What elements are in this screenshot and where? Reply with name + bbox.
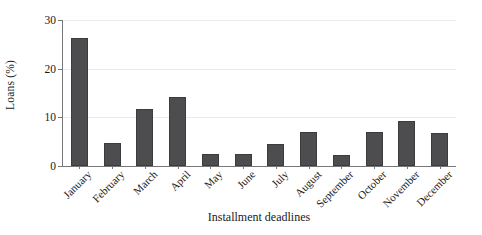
y-axis-title: Loans (%) (0, 0, 20, 170)
x-axis-tick-labels: JanuaryFebruaryMarchAprilMayJuneJulyAugu… (63, 168, 456, 212)
bar-slot (136, 20, 153, 166)
bar (333, 155, 350, 166)
bar (169, 97, 186, 166)
bar-slot (169, 20, 186, 166)
x-axis-tick-label: March (131, 168, 160, 197)
bar-slot (71, 20, 88, 166)
x-axis-title-label: Installment deadlines (208, 210, 310, 224)
plot-area: 0102030 (62, 20, 456, 166)
bar (202, 154, 219, 166)
y-axis-tick-label: 20 (45, 63, 57, 75)
bar (104, 143, 121, 166)
bar-slot (300, 20, 317, 166)
bar (431, 133, 448, 166)
y-axis-tick-label: 10 (45, 111, 57, 123)
bar-slot (235, 20, 252, 166)
bar-slot (267, 20, 284, 166)
x-axis-line (62, 166, 456, 167)
bar (267, 144, 284, 166)
x-axis-tick-label: July (269, 168, 290, 189)
bar-slot (366, 20, 383, 166)
y-axis-tick-mark (58, 69, 62, 70)
bar-slot (202, 20, 219, 166)
bar-slot (398, 20, 415, 166)
y-axis-tick-mark (58, 166, 62, 167)
x-axis-title: Installment deadlines (62, 210, 456, 225)
x-axis-tick-label: August (292, 168, 323, 199)
bar (136, 109, 153, 166)
bar-slot (333, 20, 350, 166)
bar (300, 132, 317, 166)
y-axis-tick-mark (58, 117, 62, 118)
x-axis-tick-label: April (167, 168, 192, 193)
y-axis-tick-label: 30 (45, 14, 57, 26)
bar-chart-figure: Loans (%) 0102030 JanuaryFebruaryMarchAp… (0, 0, 482, 235)
bar (71, 38, 88, 166)
x-axis-tick-label: February (90, 168, 127, 205)
y-axis-tick-mark (58, 20, 62, 21)
bars-group (63, 20, 456, 166)
bar-slot (431, 20, 448, 166)
x-axis-tick-label: June (235, 168, 258, 191)
bar (366, 132, 383, 166)
bar (235, 154, 252, 166)
bar (398, 121, 415, 166)
y-axis-tick-label: 0 (50, 160, 56, 172)
x-axis-tick-label: May (202, 168, 225, 191)
y-axis-title-label: Loans (%) (4, 60, 16, 110)
bar-slot (104, 20, 121, 166)
